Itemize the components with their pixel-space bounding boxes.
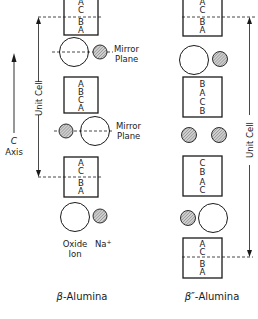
sodium-ion-icon	[181, 211, 196, 226]
arrow-up-icon	[247, 17, 252, 24]
beta-alumina-structure: A C B A Mirror Plane A B C A Mirr	[5, 0, 141, 302]
mirror-plane-label: Plane	[117, 131, 140, 141]
alumina-structure-diagram: A C B A Mirror Plane A B C A Mirr	[0, 0, 257, 319]
sodium-ion-icon	[213, 52, 228, 67]
layer-letter: A	[200, 25, 206, 35]
arrow-down-icon	[247, 250, 252, 257]
sodium-ion-icon	[93, 45, 107, 59]
c-axis-indicator: C Axis	[5, 53, 23, 157]
sodium-ion-icon	[93, 209, 107, 223]
spinel-block-1: A C B A	[64, 0, 98, 35]
beta-double-prime-alumina-structure: A C B A B A C B C B A C	[180, 0, 258, 302]
layer-letter: C	[78, 166, 84, 176]
layer-letter: C	[200, 185, 206, 195]
layer-letter: B	[200, 167, 206, 177]
layer-letter: B	[200, 106, 206, 116]
sodium-ion-icon	[212, 128, 227, 143]
oxide-ion-label: Ion	[68, 249, 81, 259]
unit-cell-label: Unit Cell	[245, 122, 255, 158]
mirror-plane-label: Mirror	[116, 121, 142, 131]
oxide-ion-icon	[61, 203, 90, 232]
spinel-block-3: C B A C	[183, 156, 222, 196]
layer-letter: A	[78, 186, 84, 196]
sodium-ion-label: Na+	[95, 238, 112, 249]
conduction-plane-1: Mirror Plane	[52, 38, 140, 67]
layer-letter: A	[78, 103, 84, 113]
conduction-plane-2: Mirror Plane	[54, 117, 142, 146]
c-axis-label: Axis	[5, 147, 23, 157]
unit-cell-label: Unit Cell	[34, 80, 44, 116]
conduction-plane-2	[182, 128, 227, 143]
layer-letter: C	[78, 5, 84, 15]
spinel-block-2: A B C A	[64, 77, 98, 113]
beta-double-prime-alumina-title: β″-Alumina	[184, 291, 240, 302]
beta-alumina-title: β-Alumina	[56, 291, 108, 302]
oxide-ion-label: Oxide	[63, 239, 88, 249]
c-axis-label: C	[11, 136, 18, 146]
unit-cell-dimension-left: Unit Cell	[34, 17, 44, 177]
spinel-block-2: B A C B	[183, 77, 222, 117]
sodium-ion-icon	[59, 124, 73, 138]
arrow-down-icon	[36, 170, 41, 177]
oxide-ion-icon	[199, 204, 228, 233]
layer-letter: C	[200, 5, 206, 15]
mirror-plane-label: Mirror	[114, 44, 140, 54]
conduction-plane-3	[181, 204, 228, 233]
layer-letter: A	[200, 267, 206, 277]
legend: Oxide Ion Na+	[61, 203, 112, 260]
conduction-plane-1	[180, 46, 228, 75]
spinel-block-1: A C B A	[183, 0, 222, 36]
oxide-ion-icon	[180, 46, 209, 75]
mirror-plane-label: Plane	[115, 54, 138, 64]
unit-cell-dimension-right: Unit Cell	[245, 17, 255, 257]
layer-letter: C	[200, 247, 206, 257]
arrow-up-icon	[36, 17, 41, 24]
arrow-up-icon	[12, 53, 17, 62]
spinel-block-4: A C B A	[183, 238, 222, 278]
sodium-ion-icon	[182, 128, 197, 143]
layer-letter: A	[78, 25, 84, 35]
